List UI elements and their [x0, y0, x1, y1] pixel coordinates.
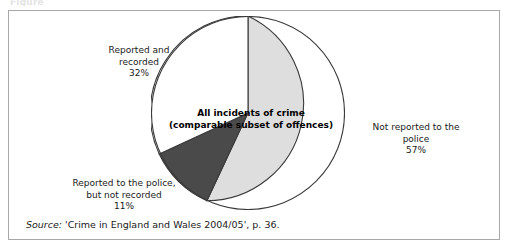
label-not-reported-value: 57%	[348, 145, 484, 157]
pie-center-title-line1: All incidents of crime	[148, 107, 354, 119]
source-note: Source: 'Crime in England and Wales 2004…	[26, 219, 280, 230]
source-keyword: Source:	[26, 219, 62, 230]
label-not-reported-to-police: Not reported to the police 57%	[348, 122, 484, 157]
label-reported-not-recorded-line2: but not recorded	[52, 190, 196, 202]
label-reported-and-recorded-line2: recorded	[76, 57, 202, 69]
label-reported-and-recorded-value: 32%	[76, 68, 202, 80]
label-reported-not-recorded-value: 11%	[52, 201, 196, 213]
pie-chart: Reported and recorded 32% Not reported t…	[0, 0, 513, 249]
source-citation: 'Crime in England and Wales 2004/05', p.…	[62, 219, 279, 230]
figure-container: Figure Reported and recorded 32% Not rep…	[0, 0, 513, 249]
label-reported-not-recorded-line1: Reported to the police,	[52, 178, 196, 190]
label-not-reported-line2: police	[348, 134, 484, 146]
label-reported-and-recorded-line1: Reported and	[76, 45, 202, 57]
label-reported-and-recorded: Reported and recorded 32%	[76, 45, 202, 80]
pie-center-title-line2: (comparable subset of offences)	[148, 119, 354, 131]
label-not-reported-line1: Not reported to the	[348, 122, 484, 134]
label-reported-not-recorded: Reported to the police, but not recorded…	[52, 178, 196, 213]
pie-center-title: All incidents of crime (comparable subse…	[148, 107, 354, 131]
